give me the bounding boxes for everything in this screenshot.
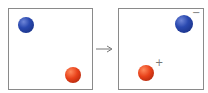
blue-ball-left: [18, 17, 34, 33]
minus-sign: −: [192, 8, 200, 18]
blue-ball-right: [175, 15, 193, 33]
red-ball-right: [138, 65, 154, 81]
arrow-right-icon: [95, 44, 115, 54]
red-ball-left: [65, 67, 81, 83]
plus-sign: +: [155, 58, 163, 68]
